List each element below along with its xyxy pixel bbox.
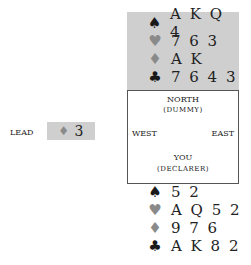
heart-icon: ♥ [145,201,165,219]
dummy-hand-panel: ♠ A K Q 4 ♥ 7 6 3 ♦ A K ♣ 7 6 4 3 [127,12,239,90]
declarer-diamonds-cards: 9 7 6 [171,219,219,237]
declarer-spades-cards: 5 2 [171,183,201,201]
bridge-table: NORTH (DUMMY) WEST EAST YOU (DECLARER) [127,90,239,184]
east-label: EAST [212,129,234,138]
declarer-diamonds-row: ♦ 9 7 6 [145,219,242,237]
north-label: NORTH [128,95,238,104]
south-label: YOU [128,153,238,162]
club-icon: ♣ [145,237,165,255]
heart-icon: ♥ [145,32,165,50]
dummy-diamonds-cards: A K [171,50,204,68]
dummy-sublabel: (DUMMY) [128,106,238,114]
dummy-hearts-cards: 7 6 3 [171,32,219,50]
declarer-hearts-cards: A Q 5 2 [171,201,242,219]
declarer-hearts-row: ♥ A Q 5 2 [145,201,242,219]
declarer-clubs-row: ♣ A K 8 2 [145,237,242,255]
lead-card: ♦ 3 [47,122,95,140]
spade-icon: ♠ [145,183,165,201]
dummy-spades-row: ♠ A K Q 4 [145,14,239,32]
diamond-icon: ♦ [145,219,165,237]
dummy-diamonds-row: ♦ A K [145,50,239,68]
lead-label: LEAD [10,128,33,137]
dummy-clubs-row: ♣ 7 6 4 3 [145,68,239,86]
lead-card-rank: 3 [75,123,86,139]
diamond-icon: ♦ [145,50,165,68]
declarer-clubs-cards: A K 8 2 [171,237,240,255]
declarer-spades-row: ♠ 5 2 [145,183,242,201]
diamond-icon: ♦ [57,124,71,138]
spade-icon: ♠ [145,14,164,32]
west-label: WEST [132,129,157,138]
dummy-clubs-cards: 7 6 4 3 [171,68,237,86]
declarer-sublabel: (DECLARER) [128,165,238,173]
club-icon: ♣ [145,68,165,86]
